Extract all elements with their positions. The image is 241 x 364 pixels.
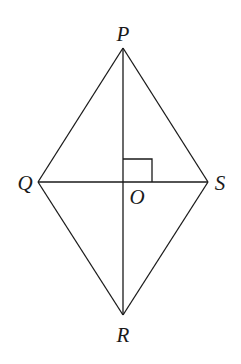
vertex-label-q: Q	[17, 171, 32, 195]
vertex-label-p: P	[116, 22, 130, 46]
side-qr	[38, 182, 123, 315]
vertex-label-r: R	[116, 323, 130, 347]
vertex-label-s: S	[215, 171, 226, 195]
side-ps	[123, 48, 208, 182]
vertex-label-o: O	[129, 185, 144, 209]
side-pq	[38, 48, 123, 182]
rhombus-diagram: P Q S R O	[0, 0, 241, 364]
right-angle-marker	[123, 159, 152, 182]
